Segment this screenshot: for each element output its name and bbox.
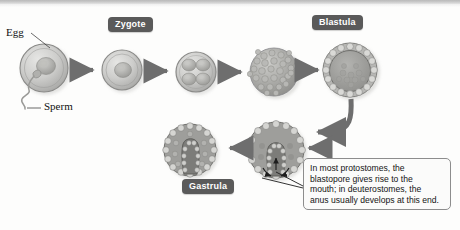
stage-late-gastrula xyxy=(163,123,219,179)
callout-line-1: In most protostomes, the xyxy=(310,163,445,174)
label-egg: Egg xyxy=(6,26,24,38)
callout-box: In most protostomes, the blastopore give… xyxy=(303,158,451,210)
arrow-blastula-to-gastrula xyxy=(318,99,351,132)
stage-label-zygote: Zygote xyxy=(108,17,153,32)
label-sperm: Sperm xyxy=(44,100,73,112)
stage-morula xyxy=(247,48,301,99)
stage-zygote xyxy=(102,50,145,93)
stage-label-gastrula: Gastrula xyxy=(182,179,234,194)
callout-line-3: mouth; in deuterostomes, the xyxy=(310,184,445,195)
embryonic-development-figure: Zygote Blastula Gastrula Egg Sperm In mo… xyxy=(0,0,460,230)
callout-line-2: blastopore gives rise to the xyxy=(310,174,445,185)
stage-four-cell xyxy=(176,52,219,95)
callout-line-4: anus usually develops at this end. xyxy=(310,195,445,206)
stage-blastula xyxy=(323,43,380,100)
stage-label-blastula: Blastula xyxy=(312,15,363,30)
